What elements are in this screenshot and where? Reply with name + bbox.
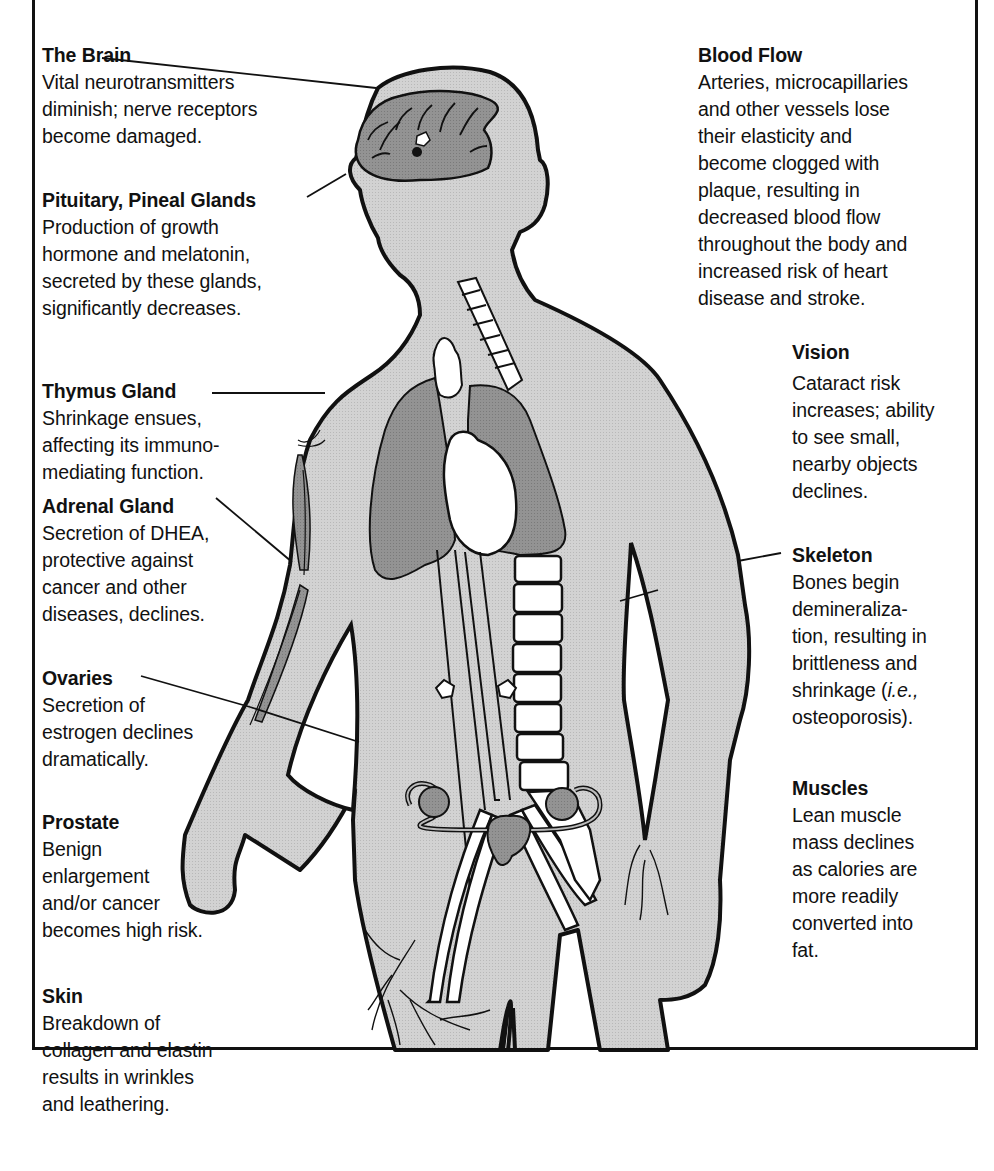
label-description: Breakdown of collagen and elastin result… bbox=[42, 1010, 212, 1118]
skeleton-desc-part2: osteoporosis). bbox=[792, 706, 913, 728]
label-the-brain: The Brain Vital neurotransmitters dimini… bbox=[42, 42, 257, 150]
label-description: Benign enlargement and/or cancer becomes… bbox=[42, 836, 203, 944]
label-description: Shrinkage ensues, affecting its immuno- … bbox=[42, 405, 219, 486]
label-description: Bones begin demineraliza- tion, resultin… bbox=[792, 569, 927, 731]
label-title: Skeleton bbox=[792, 542, 927, 569]
label-skeleton: Skeleton Bones begin demineraliza- tion,… bbox=[792, 542, 927, 731]
label-title: Blood Flow bbox=[698, 42, 908, 69]
label-title: Muscles bbox=[792, 775, 917, 802]
pineal-gland bbox=[412, 147, 422, 157]
label-description: Secretion of DHEA, protective against ca… bbox=[42, 520, 209, 628]
label-ovaries: Ovaries Secretion of estrogen declines d… bbox=[42, 665, 193, 773]
label-adrenal-gland: Adrenal Gland Secretion of DHEA, protect… bbox=[42, 493, 209, 628]
label-title: Thymus Gland bbox=[42, 378, 219, 405]
ovary-left bbox=[419, 787, 449, 817]
label-prostate: Prostate Benign enlargement and/or cance… bbox=[42, 809, 203, 944]
label-title: Skin bbox=[42, 983, 212, 1010]
label-vision: Vision Cataract risk increases; ability … bbox=[792, 339, 934, 505]
label-title: Ovaries bbox=[42, 665, 193, 692]
label-title: The Brain bbox=[42, 42, 257, 69]
label-description: Arteries, microcapillaries and other ves… bbox=[698, 69, 908, 312]
label-blood-flow: Blood Flow Arteries, microcapillaries an… bbox=[698, 42, 908, 312]
label-title: Vision bbox=[792, 339, 934, 366]
label-description: Production of growth hormone and melaton… bbox=[42, 214, 262, 322]
label-title: Pituitary, Pineal Glands bbox=[42, 187, 262, 214]
ovary-right bbox=[546, 788, 578, 820]
label-pituitary-pineal-glands: Pituitary, Pineal Glands Production of g… bbox=[42, 187, 262, 322]
label-skin: Skin Breakdown of collagen and elastin r… bbox=[42, 983, 212, 1118]
label-description: Cataract risk increases; ability to see … bbox=[792, 370, 934, 505]
label-title: Adrenal Gland bbox=[42, 493, 209, 520]
skeleton-desc-italic: i.e., bbox=[887, 679, 918, 701]
label-thymus-gland: Thymus Gland Shrinkage ensues, affecting… bbox=[42, 378, 219, 486]
label-description: Vital neurotransmitters diminish; nerve … bbox=[42, 69, 257, 150]
label-description: Lean muscle mass declines as calories ar… bbox=[792, 802, 917, 964]
label-description: Secretion of estrogen declines dramatica… bbox=[42, 692, 193, 773]
label-title: Prostate bbox=[42, 809, 203, 836]
label-muscles: Muscles Lean muscle mass declines as cal… bbox=[792, 775, 917, 964]
